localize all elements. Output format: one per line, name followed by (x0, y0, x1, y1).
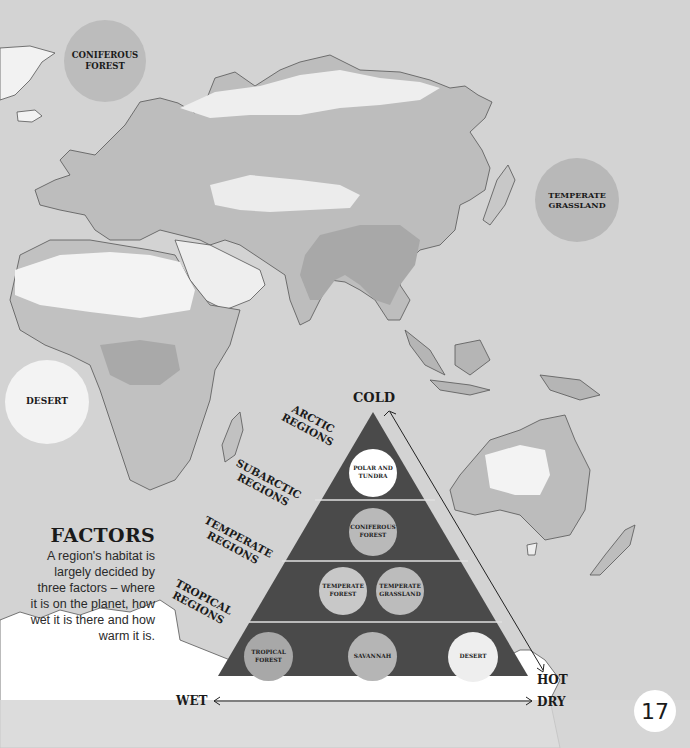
habitat-coniferous-forest: CONIFEROUS FOREST (349, 508, 397, 556)
habitat-tropical-forest: TROPICAL FOREST (244, 632, 293, 681)
habitat-temperate-forest: TEMPERATE FOREST (319, 567, 367, 615)
page: CONIFEROUS FOREST TEMPERATE GRASSLAND DE… (0, 0, 690, 748)
axis-hot: HOT (537, 673, 568, 687)
habitat-desert: DESERT (448, 632, 498, 682)
axis-cold: COLD (353, 390, 395, 405)
page-number: 17 (634, 690, 676, 732)
axis-dry: DRY (537, 695, 566, 709)
habitat-pyramid (0, 0, 690, 748)
habitat-savannah: SAVANNAH (348, 632, 397, 681)
habitat-polar-tundra: POLAR AND TUNDRA (349, 449, 397, 497)
habitat-temperate-grassland: TEMPERATE GRASSLAND (376, 567, 424, 615)
axis-wet: WET (176, 694, 208, 708)
